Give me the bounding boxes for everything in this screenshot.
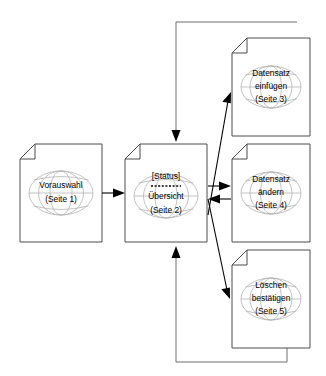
node-vorauswahl[interactable]: Vorauswahl (Seite 1) — [20, 144, 102, 242]
page-fold-icon — [20, 144, 35, 159]
node-label-line: (Seite 5) — [255, 306, 287, 316]
node-label-line: einfügen — [255, 81, 287, 91]
node-uebersicht[interactable]: [Status] Übersicht (Seite 2) — [125, 144, 207, 242]
node-datensatz-aendern[interactable]: Datensatz ändern (Seite 4) — [232, 144, 310, 242]
node-label-line: Löschen — [255, 280, 287, 290]
diagram-canvas: Vorauswahl (Seite 1) [Status] Übersicht … — [0, 0, 326, 376]
node-datensatz-einfuegen[interactable]: Datensatz einfügen (Seite 3) — [232, 38, 310, 136]
connection-seite1-to-seite2 — [102, 189, 125, 198]
node-label-line: Datensatz — [252, 68, 290, 78]
connection-seite2-to-seite4 — [208, 182, 231, 191]
page-flow-diagram: Vorauswahl (Seite 1) [Status] Übersicht … — [0, 0, 326, 376]
node-status-label: [Status] — [152, 171, 180, 181]
page-fold-icon — [232, 250, 247, 265]
node-loeschen-bestaetigen[interactable]: Löschen bestätigen (Seite 5) — [232, 250, 310, 348]
page-fold-icon — [125, 144, 140, 159]
node-label-line: (Seite 3) — [255, 94, 287, 104]
node-label-line: (Seite 2) — [150, 205, 182, 215]
page-fold-icon — [232, 38, 247, 53]
node-label-line: ändern — [258, 187, 284, 197]
node-label-line: Vorauswahl — [39, 180, 82, 190]
node-label-line: bestätigen — [252, 293, 291, 303]
connection-seite2-to-seite5 — [208, 199, 230, 299]
node-label-line: (Seite 4) — [255, 200, 287, 210]
page-fold-icon — [232, 144, 247, 159]
node-label-line: Datensatz — [252, 174, 290, 184]
node-label-line: (Seite 1) — [45, 194, 77, 204]
node-label-line: Übersicht — [148, 191, 184, 201]
